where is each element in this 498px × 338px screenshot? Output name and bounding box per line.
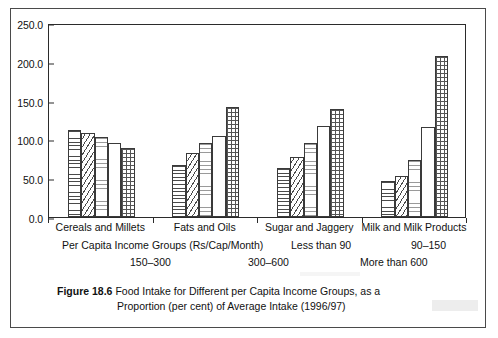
bar (408, 160, 421, 217)
bar (81, 133, 94, 217)
bar-chart: 250.0200.0150.0100.050.00.0 Cereals and … (0, 0, 498, 250)
y-axis-tick-label: 150.0 (17, 97, 49, 109)
bar (290, 157, 303, 217)
legend-label-90-150: 90–150 (411, 239, 446, 251)
y-axis-tick-label: 0.0 (29, 213, 49, 225)
caption-line-1: Food Intake for Different per Capita Inc… (115, 285, 380, 297)
x-axis-category-label: Fats and Oils (153, 221, 258, 233)
bar (304, 143, 317, 217)
bar (121, 148, 134, 217)
figure-number: Figure 18.6 (57, 285, 112, 297)
bar (226, 107, 239, 217)
legend-label-300-600: 300–600 (248, 256, 289, 268)
x-axis-category-label: Cereals and Millets (48, 221, 153, 233)
bar (277, 168, 290, 217)
y-axis-tick-label: 250.0 (17, 19, 49, 31)
bar (186, 153, 199, 217)
legend-axis-title: Per Capita Income Groups (Rs/Cap/Month) (62, 239, 263, 251)
y-axis-tick-label: 50.0 (23, 174, 49, 186)
bar (395, 176, 408, 217)
bar (108, 143, 121, 217)
bar (212, 136, 225, 217)
legend-label-more-than-600: More than 600 (360, 256, 428, 268)
x-axis-category-label: Milk and Milk Products (362, 221, 467, 233)
bar (381, 181, 394, 217)
x-axis-category-label: Sugar and Jaggery (257, 221, 362, 233)
bar (199, 143, 212, 217)
bar (172, 165, 185, 217)
figure-page: 250.0200.0150.0100.050.00.0 Cereals and … (0, 0, 498, 338)
plot-area: 250.0200.0150.0100.050.00.0 (48, 24, 466, 218)
y-axis-tick-mark (49, 219, 54, 220)
bar (68, 130, 81, 217)
bar-series-container (49, 25, 465, 217)
caption-line-2: Proportion (per cent) of Average Intake … (117, 299, 447, 314)
bar (421, 127, 434, 217)
figure-caption: Figure 18.6 Food Intake for Different pe… (57, 284, 447, 313)
y-axis-tick-label: 100.0 (17, 135, 49, 147)
legend-label-150-300: 150–300 (130, 256, 171, 268)
y-axis-tick-label: 200.0 (17, 58, 49, 70)
legend-label-less-than-90: Less than 90 (291, 239, 351, 251)
bar (317, 126, 330, 217)
bar (95, 137, 108, 217)
bar (435, 56, 448, 217)
bar (330, 109, 343, 217)
